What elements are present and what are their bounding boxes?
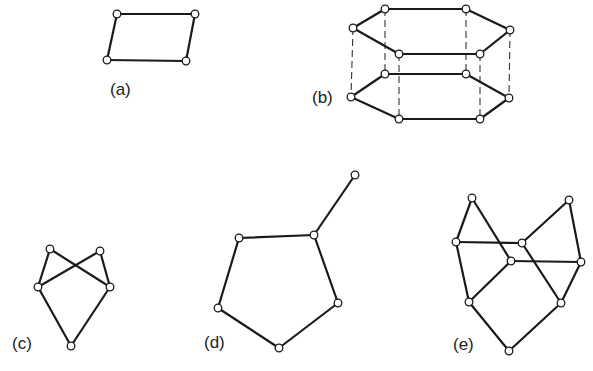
graph-edge [466, 9, 510, 30]
graph-edge [469, 261, 511, 302]
graph-vertex [505, 347, 513, 355]
graph-edge [107, 60, 186, 61]
graph-vertex [191, 10, 199, 18]
graph-edge [511, 261, 581, 262]
graph-vertex [462, 5, 470, 13]
graph-edge [456, 242, 522, 243]
graph-edge [480, 30, 510, 54]
graph-vertex [235, 234, 243, 242]
graph-vertex [452, 238, 460, 246]
graph-edge [472, 198, 511, 261]
label-d: (d) [204, 333, 225, 353]
graph-edge [509, 303, 561, 351]
graph-edge [107, 14, 117, 60]
graph-vertex [557, 299, 565, 307]
graph-edge [561, 262, 581, 303]
graph-vertex [518, 239, 526, 247]
graph-vertex [351, 171, 359, 179]
graph-vertex [565, 196, 573, 204]
graph-vertex [275, 344, 283, 352]
graph-vertex [468, 194, 476, 202]
graph-edge [314, 235, 338, 303]
graph-vertex [310, 231, 318, 239]
graph-edge [480, 98, 509, 119]
graph-vertex [395, 115, 403, 123]
graph-edge [353, 9, 385, 28]
graph-vertex [113, 10, 121, 18]
label-a: (a) [110, 80, 131, 100]
graph-edge [351, 97, 399, 119]
graph-vertex [507, 257, 515, 265]
graph-vertex [395, 50, 403, 58]
graph-edge [522, 200, 569, 243]
graph-edge [71, 287, 110, 346]
graph-vertex [334, 299, 342, 307]
graph-edge [469, 302, 509, 351]
graph-edge [353, 28, 399, 54]
graph-edge [279, 303, 338, 348]
graph-edge [351, 74, 385, 97]
graph-vertex [476, 115, 484, 123]
graph-vertex [381, 5, 389, 13]
subfigure-b [347, 5, 514, 123]
graph-vertex [103, 56, 111, 64]
graph-vertex [349, 24, 357, 32]
graph-vertex [476, 50, 484, 58]
graph-figures-canvas [0, 0, 593, 371]
graph-edge [218, 308, 279, 348]
graph-vertex [506, 26, 514, 34]
graph-vertex [381, 70, 389, 78]
graph-vertex [505, 94, 513, 102]
graph-vertex [34, 283, 42, 291]
graph-vertex [465, 298, 473, 306]
graph-edge [456, 198, 472, 242]
graph-vertex [46, 245, 54, 253]
graph-vertex [347, 93, 355, 101]
graph-vertex [182, 57, 190, 65]
graph-vertex [214, 304, 222, 312]
subfigure-c [34, 245, 114, 350]
subfigure-d [214, 171, 359, 352]
label-c: (c) [12, 334, 32, 354]
graph-edge [522, 243, 561, 303]
graph-vertex [67, 342, 75, 350]
graph-edge [456, 242, 469, 302]
label-e: (e) [453, 335, 474, 355]
graph-edge [186, 14, 195, 61]
graph-vertex [577, 258, 585, 266]
graph-edge [569, 200, 581, 262]
label-b: (b) [312, 88, 333, 108]
graph-vertex [106, 283, 114, 291]
dashed-edge [351, 28, 353, 97]
graph-edge [38, 287, 71, 346]
graph-edge [239, 235, 314, 238]
graph-edge [314, 175, 355, 235]
subfigure-a [103, 10, 199, 65]
dashed-edge [509, 30, 510, 98]
graph-edge [466, 74, 509, 98]
graph-vertex [462, 70, 470, 78]
graph-edge [218, 238, 239, 308]
graph-vertex [96, 247, 104, 255]
subfigure-e [452, 194, 585, 355]
